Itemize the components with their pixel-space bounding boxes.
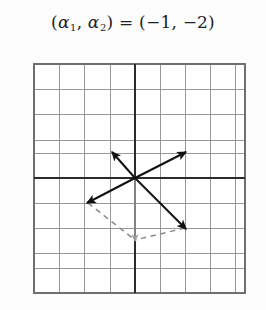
vector-figure: (α1, α2) = (−1, −2) <box>0 0 266 310</box>
plot-area <box>0 0 266 310</box>
